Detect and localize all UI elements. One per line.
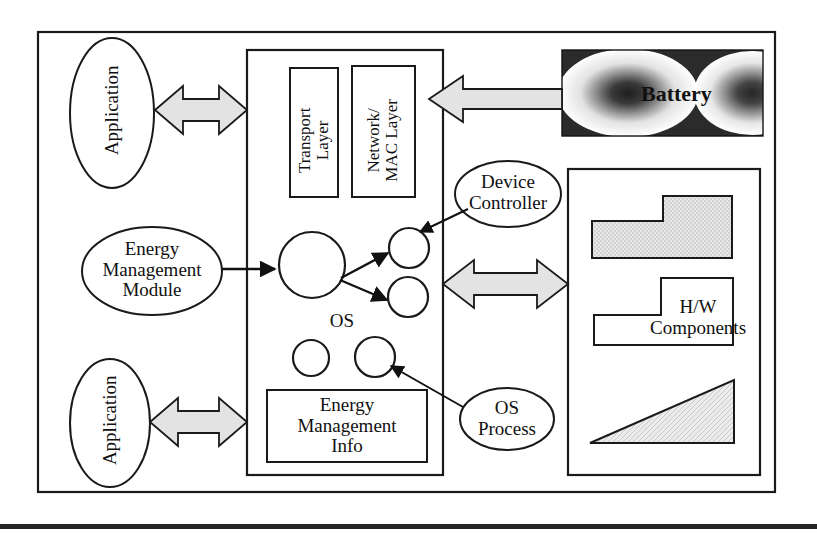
os-process-circle-bottom-left <box>293 340 329 376</box>
connector-battery-to-os <box>429 76 562 122</box>
diagram-canvas: Application Application Energy Managemen… <box>0 0 817 533</box>
os-process-circle-lower <box>388 277 428 317</box>
energy-management-module-ellipse <box>82 227 222 315</box>
hw-components-box <box>568 169 760 475</box>
os-process-ellipse <box>460 388 554 450</box>
hw-step-filled-shape <box>592 196 732 258</box>
os-core-circle <box>279 232 345 298</box>
os-process-circle-bottom-right <box>355 337 395 377</box>
diagram-svg <box>0 0 817 533</box>
footer-rule <box>0 524 817 529</box>
battery-image <box>558 49 810 137</box>
connector-app-bottom-to-os <box>150 398 247 446</box>
connector-app-top-to-os <box>155 86 247 134</box>
connector-os-to-hw <box>443 260 568 308</box>
connector-os-core-to-proc-upper <box>341 253 388 278</box>
device-controller-ellipse <box>455 161 561 227</box>
connector-os-core-to-proc-lower <box>340 280 387 300</box>
network-mac-layer-box <box>352 66 415 197</box>
os-process-circle-upper <box>389 228 429 268</box>
hw-step-outline-shape <box>594 278 733 345</box>
energy-management-info-box <box>267 390 427 462</box>
application-bottom-ellipse <box>70 359 150 487</box>
application-top-ellipse <box>70 38 154 188</box>
hw-triangle-shape <box>590 380 734 443</box>
transport-layer-box <box>290 68 338 197</box>
